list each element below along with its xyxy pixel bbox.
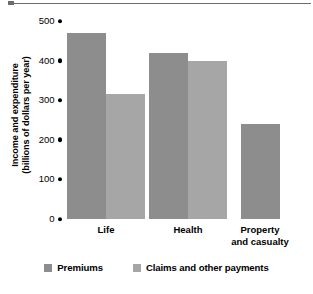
y-axis-tick: 500 [39,16,64,26]
y-axis-tick-dot-icon [58,138,63,143]
x-axis-category-label-line: Property [231,224,289,236]
y-axis-tick-dot-icon [58,19,63,24]
legend-item: Premiums [44,262,103,273]
top-divider-rule [8,3,311,4]
y-axis-tick-label: 100 [39,175,55,185]
y-axis-tick: 400 [39,56,64,66]
y-axis-tick: 300 [39,95,64,105]
y-axis-tick-label: 300 [39,95,55,105]
y-axis-tick-dot-icon [58,98,63,103]
x-axis-category-label: Health [173,224,202,236]
bar [188,61,227,219]
y-axis-tick-dot-icon [58,217,63,222]
y-axis-title-line-1: Income and expenditure [10,20,21,210]
y-axis-tick-dot-icon [58,58,63,63]
legend-label: Premiums [57,262,103,273]
plot-area: 5004003002001000LifeHealthPropertyand ca… [64,21,304,219]
bar [149,53,188,219]
bar-group-bars [63,21,149,219]
y-axis-tick-label: 500 [39,16,55,26]
top-divider-cap [8,1,14,5]
y-axis-tick: 100 [39,175,64,185]
bar [67,33,106,219]
x-axis-category-label-line: Life [98,224,115,236]
legend-item: Claims and other payments [133,262,269,273]
y-axis-tick: 0 [49,214,64,224]
y-axis-tick-dot-icon [58,177,63,182]
bar-group: Health [145,21,231,219]
bar-chart-figure: Income and expenditure (billions of doll… [0,0,313,294]
bar-group: Propertyand casualty [230,21,290,219]
legend-swatch-icon [133,264,141,272]
y-axis-tick: 200 [39,135,64,145]
x-axis-category-label: Propertyand casualty [231,224,289,247]
chart-legend: PremiumsClaims and other payments [0,262,313,273]
y-axis-tick-label: 400 [39,56,55,66]
y-axis-title: Income and expenditure (billions of doll… [10,20,32,210]
x-axis-category-label: Life [98,224,115,236]
bar-group: Life [63,21,149,219]
legend-label: Claims and other payments [146,262,269,273]
bar [241,124,280,219]
y-axis-tick-label: 0 [49,214,54,224]
y-axis-title-line-2: (billions of dollars per year) [21,20,32,210]
legend-swatch-icon [44,264,52,272]
x-axis-category-label-line: Health [173,224,202,236]
bar-group-bars [230,21,290,219]
x-axis-category-label-line: and casualty [231,236,289,248]
bar [106,94,145,219]
bar-group-bars [145,21,231,219]
y-axis-tick-label: 200 [39,135,55,145]
